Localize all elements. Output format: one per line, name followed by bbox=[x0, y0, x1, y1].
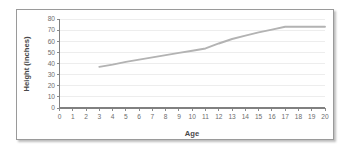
y-tick-label: 20 bbox=[48, 82, 56, 89]
x-tick-label: 10 bbox=[189, 113, 197, 120]
x-tick-label: 0 bbox=[58, 113, 62, 120]
x-tick-label: 12 bbox=[215, 113, 223, 120]
y-axis-title: Height (inches) bbox=[22, 36, 31, 91]
x-axis-title: Age bbox=[185, 129, 199, 138]
x-tick-label: 20 bbox=[321, 113, 329, 120]
gridlines bbox=[60, 19, 326, 108]
y-tick-label: 80 bbox=[48, 15, 56, 22]
y-axis-ticks: 01020304050607080 bbox=[48, 15, 60, 111]
x-tick-label: 9 bbox=[177, 113, 181, 120]
x-tick-label: 16 bbox=[268, 113, 276, 120]
x-tick-label: 7 bbox=[151, 113, 155, 120]
x-axis-ticks: 01234567891011121314151617181920 bbox=[58, 108, 329, 120]
x-tick-label: 11 bbox=[202, 113, 209, 120]
chart-svg: 01020304050607080 0123456789101112131415… bbox=[17, 10, 335, 141]
x-tick-label: 13 bbox=[228, 113, 236, 120]
x-tick-label: 6 bbox=[137, 113, 141, 120]
x-tick-label: 18 bbox=[295, 113, 303, 120]
x-tick-label: 1 bbox=[71, 113, 75, 120]
growth-chart: 01020304050607080 0123456789101112131415… bbox=[17, 10, 335, 141]
x-tick-label: 19 bbox=[308, 113, 316, 120]
y-tick-label: 40 bbox=[48, 60, 56, 67]
chart-frame: 01020304050607080 0123456789101112131415… bbox=[16, 9, 334, 140]
height-line-series bbox=[99, 27, 325, 67]
y-tick-label: 50 bbox=[48, 49, 56, 56]
y-tick-label: 10 bbox=[48, 93, 56, 100]
x-tick-label: 4 bbox=[111, 113, 115, 120]
y-tick-label: 60 bbox=[48, 38, 56, 45]
x-tick-label: 2 bbox=[84, 113, 88, 120]
x-tick-label: 5 bbox=[124, 113, 128, 120]
y-tick-label: 0 bbox=[51, 104, 55, 111]
x-tick-label: 14 bbox=[242, 113, 250, 120]
x-tick-label: 8 bbox=[164, 113, 168, 120]
x-tick-label: 17 bbox=[282, 113, 290, 120]
y-tick-label: 70 bbox=[48, 26, 56, 33]
x-tick-label: 15 bbox=[255, 113, 263, 120]
y-tick-label: 30 bbox=[48, 71, 56, 78]
x-tick-label: 3 bbox=[97, 113, 101, 120]
